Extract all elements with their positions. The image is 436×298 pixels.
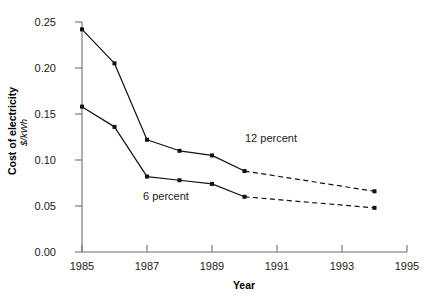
x-tick-label-1991: 1991 [265, 260, 289, 272]
series-12-percent [80, 27, 377, 193]
data-point-1990 [243, 195, 247, 199]
data-point-1985 [80, 27, 84, 31]
series-annotation-6-percent: 6 percent [143, 190, 189, 202]
data-point-1987 [145, 175, 149, 179]
data-point-1994 [373, 189, 377, 193]
y-tick-label-0.20: 0.20 [35, 62, 56, 74]
x-tick-label-1987: 1987 [135, 260, 159, 272]
data-point-1986 [113, 61, 117, 65]
series-layer [80, 27, 377, 209]
data-point-1988 [178, 149, 182, 153]
y-tick-label-0.00: 0.00 [35, 246, 56, 258]
y-tick-label-0.05: 0.05 [35, 200, 56, 212]
x-tick-label-1985: 1985 [70, 260, 94, 272]
cost-of-electricity-chart: Cost of electricity $/kWh 0.25 0.20 0.15… [0, 0, 436, 298]
y-tick-label-0.25: 0.25 [35, 16, 56, 28]
series-line-dashed [245, 197, 375, 208]
data-point-1986 [113, 125, 117, 129]
y-tick-label-0.10: 0.10 [35, 154, 56, 166]
x-tick-label-1989: 1989 [200, 260, 224, 272]
x-tick-label-1993: 1993 [330, 260, 354, 272]
series-line-solid [82, 107, 245, 197]
y-axis-title: Cost of electricity [6, 87, 18, 175]
y-tick-label-0.15: 0.15 [35, 108, 56, 120]
data-point-1989 [210, 153, 214, 157]
data-point-1989 [210, 182, 214, 186]
x-axis-title: Year [233, 279, 255, 291]
data-point-1990 [243, 169, 247, 173]
data-point-1985 [80, 105, 84, 109]
data-point-1987 [145, 138, 149, 142]
x-tick-label-1995: 1995 [395, 260, 419, 272]
series-line-solid [82, 29, 245, 171]
series-6-percent [80, 105, 377, 210]
series-line-dashed [245, 171, 375, 191]
data-point-1994 [373, 206, 377, 210]
y-axis-units: $/kWh [18, 119, 29, 147]
series-annotation-12-percent: 12 percent [245, 132, 297, 144]
data-point-1988 [178, 178, 182, 182]
chart-plot-area: Cost of electricity $/kWh 0.25 0.20 0.15… [0, 0, 436, 298]
